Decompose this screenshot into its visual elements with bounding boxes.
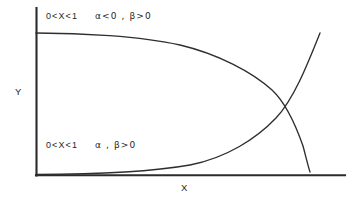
annotation-lower-params: α , β>0: [95, 140, 136, 150]
figure-container: 0<X<1α<0 , β>0 0<X<1α , β>0 Y X: [0, 0, 356, 201]
annotation-lower-domain: 0<X<1: [46, 140, 78, 150]
curve-reverse-j: [36, 33, 310, 172]
annotation-upper: 0<X<1α<0 , β>0: [46, 12, 152, 21]
plot-canvas: [0, 0, 356, 201]
x-axis-label: X: [181, 182, 188, 193]
annotation-upper-domain: 0<X<1: [46, 11, 78, 21]
annotation-upper-params: α<0 , β>0: [95, 11, 152, 21]
y-axis-label: Y: [15, 86, 22, 97]
curve-j-shaped: [36, 33, 320, 174]
annotation-lower: 0<X<1α , β>0: [46, 141, 136, 150]
